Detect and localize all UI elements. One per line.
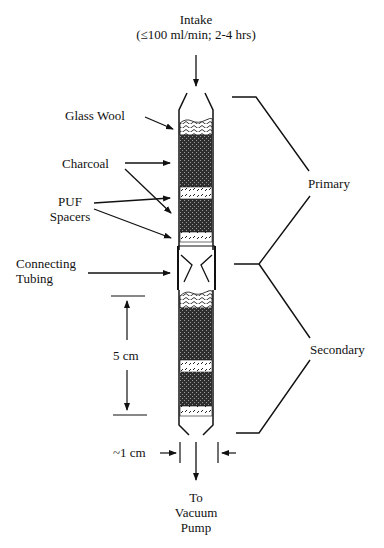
glass-wool-label: Glass Wool (65, 108, 125, 123)
charcoal-pointer-2 (125, 169, 171, 213)
tube-bottom-outlet (179, 420, 213, 435)
width-label: ~1 cm (113, 445, 146, 460)
puf-pointer-2 (94, 209, 171, 238)
charcoal-layer (180, 135, 212, 187)
connecting-tubing-label: Connecting Tubing (16, 256, 76, 286)
secondary-bracket (236, 264, 310, 433)
secondary-label: Secondary (310, 342, 365, 357)
glass-wool-pointer (145, 117, 173, 129)
puf-spacers-label: PUF Spacers (42, 194, 98, 224)
charcoal-layer (180, 308, 212, 360)
puf-spacer-layer (180, 232, 212, 242)
charcoal-label: Charcoal (62, 156, 109, 171)
width-dimension (160, 442, 236, 463)
secondary-section (180, 291, 212, 416)
primary-section (180, 118, 212, 242)
puf-spacer-layer (180, 360, 212, 372)
primary-label: Primary (308, 176, 350, 191)
connecting-tubing (178, 246, 215, 290)
scale-label: 5 cm (113, 348, 139, 363)
primary-bracket (232, 97, 310, 264)
sampling-tube-diagram: Intake (≤100 ml/min; 2-4 hrs) Glass Wool… (0, 0, 384, 548)
intake-label: Intake (≤100 ml/min; 2-4 hrs) (136, 12, 256, 42)
charcoal-layer (180, 372, 212, 406)
charcoal-layer (180, 199, 212, 232)
outlet-label: To Vacuum Pump (166, 490, 226, 535)
puf-spacer-layer (180, 187, 212, 199)
puf-spacer-layer (180, 406, 212, 416)
glass-wool-layer (180, 118, 212, 135)
glass-wool-layer (180, 291, 212, 308)
